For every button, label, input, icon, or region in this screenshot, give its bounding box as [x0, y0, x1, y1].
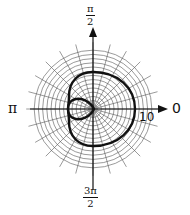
label-pi: π	[8, 101, 17, 115]
label-denominator: 2	[87, 198, 93, 209]
grid-spoke	[93, 62, 140, 109]
grid-spoke	[93, 109, 140, 156]
label-3pi-over-2: 3π 2	[83, 186, 98, 209]
label-numerator: π	[86, 4, 95, 16]
grid-spoke	[93, 92, 158, 109]
label-pi-over-2: π 2	[86, 4, 95, 27]
arrow-right-icon	[158, 105, 168, 113]
label-zero: 0	[172, 101, 181, 115]
radial-tick-10: 10	[139, 111, 154, 123]
label-denominator: 2	[87, 16, 93, 27]
grid-spoke	[93, 109, 110, 174]
label-numerator: 3π	[83, 186, 98, 198]
polar-graph	[0, 0, 190, 215]
grid-spoke	[93, 44, 110, 109]
axes	[30, 27, 168, 190]
arrow-up-icon	[89, 27, 97, 37]
